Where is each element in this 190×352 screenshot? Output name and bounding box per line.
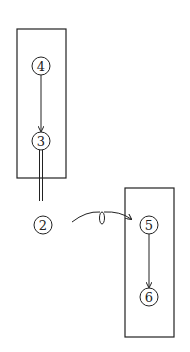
node-3-label: 3 — [37, 134, 45, 149]
node-4-label: 4 — [37, 59, 45, 74]
node-3: 3 — [32, 132, 50, 150]
diagram-canvas: 4 3 2 5 6 — [0, 0, 190, 352]
node-2-label: 2 — [39, 218, 47, 233]
node-5: 5 — [140, 216, 158, 234]
node-5-label: 5 — [145, 218, 153, 233]
node-6: 6 — [140, 288, 158, 306]
edge-3-to-2-double-line — [40, 150, 43, 201]
node-4: 4 — [32, 57, 50, 75]
edge-2-to-5-curved-loop-arrow — [72, 212, 131, 224]
node-6-label: 6 — [145, 290, 153, 305]
node-2: 2 — [34, 216, 52, 234]
